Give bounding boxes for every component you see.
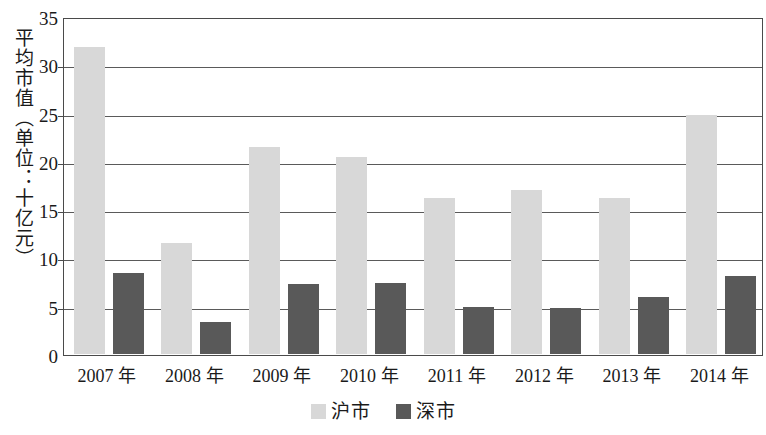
bar-深市-2009年: [288, 284, 319, 354]
bar-group: [678, 19, 766, 354]
legend-label: 深市: [416, 402, 455, 421]
bar-沪市-2013年: [599, 198, 630, 354]
bars: [65, 19, 761, 354]
bar-group: [328, 19, 416, 354]
bar-沪市-2008年: [161, 243, 192, 354]
y-tick-label: 15: [39, 202, 58, 221]
y-tick-mark: [58, 212, 64, 213]
y-tick-label: 25: [39, 105, 58, 124]
bar-沪市-2014年: [686, 115, 717, 354]
bar-沪市-2007年: [74, 47, 105, 354]
y-tick-mark: [58, 309, 64, 310]
y-tick-mark: [58, 116, 64, 117]
bar-沪市-2009年: [249, 147, 280, 354]
bar-深市-2010年: [375, 283, 406, 354]
y-tick-label: 10: [39, 250, 58, 269]
bar-深市-2007年: [113, 273, 144, 354]
bar-group: [503, 19, 591, 354]
bar-group: [240, 19, 328, 354]
bar-深市-2014年: [725, 276, 756, 354]
chart-legend: 沪市深市: [0, 402, 766, 421]
legend-swatch-icon: [396, 404, 411, 419]
y-tick-mark: [58, 260, 64, 261]
y-tick-mark: [58, 164, 64, 165]
bar-group: [65, 19, 153, 354]
bar-沪市-2010年: [336, 157, 367, 354]
x-tick-label: 2014 年: [690, 362, 749, 390]
legend-label: 沪市: [331, 402, 370, 421]
bar-group: [153, 19, 241, 354]
plot-area: [63, 18, 763, 356]
x-tick-label: 2008 年: [165, 362, 224, 390]
bar-深市-2011年: [463, 307, 494, 354]
x-tick-label: 2007 年: [78, 362, 137, 390]
y-tick-label: 0: [49, 347, 59, 366]
bar-chart: 平均市值（单位：十亿元） 05101520253035 2007 年2008 年…: [0, 0, 766, 435]
x-tick-label: 2013 年: [603, 362, 662, 390]
legend-item: 沪市: [311, 402, 370, 421]
x-tick-label: 2012 年: [515, 362, 574, 390]
bar-深市-2013年: [638, 297, 669, 354]
y-tick-label: 20: [39, 153, 58, 172]
x-tick-label: 2010 年: [340, 362, 399, 390]
legend-item: 深市: [396, 402, 455, 421]
legend-swatch-icon: [311, 404, 326, 419]
bar-深市-2008年: [200, 322, 231, 354]
bar-深市-2012年: [550, 308, 581, 354]
y-axis-tick-labels: 05101520253035: [22, 18, 58, 356]
bar-沪市-2012年: [511, 190, 542, 354]
bar-沪市-2011年: [424, 198, 455, 354]
bar-group: [590, 19, 678, 354]
y-tick-label: 35: [39, 9, 58, 28]
x-tick-label: 2011 年: [428, 362, 486, 390]
bar-group: [415, 19, 503, 354]
y-tick-label: 5: [49, 298, 59, 317]
x-axis-tick-labels: 2007 年2008 年2009 年2010 年2011 年2012 年2013…: [63, 362, 763, 396]
y-tick-label: 30: [39, 57, 58, 76]
x-tick-label: 2009 年: [253, 362, 312, 390]
y-tick-mark: [58, 67, 64, 68]
